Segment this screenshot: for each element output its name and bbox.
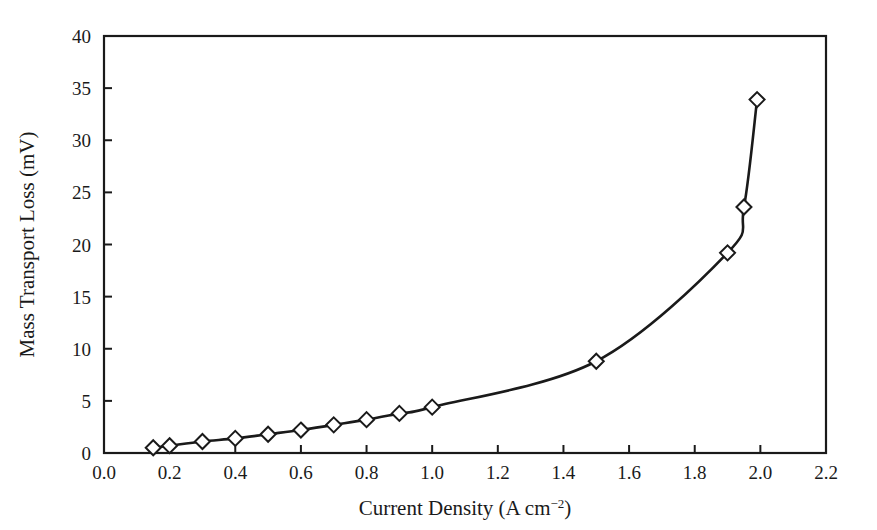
x-tick-label: 0.2 — [158, 462, 182, 483]
y-axis-title: Mass Transport Loss (mV) — [15, 132, 39, 358]
x-axis-title-text: Current Density (A cm−2) — [359, 496, 572, 520]
data-point-marker — [392, 406, 407, 421]
y-tick-label: 40 — [72, 26, 91, 47]
y-tick-label: 20 — [72, 235, 91, 256]
axes-frame — [104, 36, 826, 453]
y-tick-label: 30 — [72, 130, 91, 151]
x-axis-title: Current Density (A cm−2) — [359, 496, 572, 520]
data-point-marker — [359, 412, 374, 427]
y-tick-label: 25 — [72, 182, 91, 203]
x-tick-label: 0.6 — [289, 462, 313, 483]
chart-figure: 0.00.20.40.60.81.01.21.41.61.82.02.2 051… — [0, 0, 877, 530]
x-tick-label: 2.0 — [748, 462, 772, 483]
data-point-marker — [162, 438, 177, 453]
y-tick-label: 35 — [72, 78, 91, 99]
y-tick-label: 15 — [72, 287, 91, 308]
x-axis-tick-labels: 0.00.20.40.60.81.01.21.41.61.82.02.2 — [92, 462, 838, 483]
x-tick-label: 0.0 — [92, 462, 116, 483]
chart-canvas: 0.00.20.40.60.81.01.21.41.61.82.02.2 051… — [0, 0, 877, 530]
data-point-marker — [736, 199, 751, 214]
data-point-marker — [228, 431, 243, 446]
x-tick-label: 1.6 — [617, 462, 641, 483]
y-axis-ticks — [104, 88, 112, 401]
data-point-marker — [750, 92, 765, 107]
x-tick-label: 2.2 — [814, 462, 838, 483]
x-tick-label: 0.4 — [223, 462, 247, 483]
x-tick-label: 1.8 — [683, 462, 707, 483]
x-axis-ticks — [170, 445, 761, 453]
data-point-marker — [261, 427, 276, 442]
data-point-marker — [293, 423, 308, 438]
x-tick-label: 1.2 — [486, 462, 510, 483]
data-series-line — [153, 100, 757, 448]
data-point-marker — [425, 400, 440, 415]
x-tick-label: 1.4 — [552, 462, 576, 483]
y-tick-label: 10 — [72, 339, 91, 360]
x-tick-label: 1.0 — [420, 462, 444, 483]
data-point-marker — [589, 354, 604, 369]
y-tick-label: 0 — [82, 443, 92, 464]
data-point-marker — [195, 434, 210, 449]
y-axis-tick-labels: 0510152025303540 — [72, 26, 91, 464]
x-tick-label: 0.8 — [355, 462, 379, 483]
y-tick-label: 5 — [82, 391, 92, 412]
y-axis-title-text: Mass Transport Loss (mV) — [15, 132, 39, 358]
data-point-marker — [326, 417, 341, 432]
series-line — [153, 100, 757, 448]
